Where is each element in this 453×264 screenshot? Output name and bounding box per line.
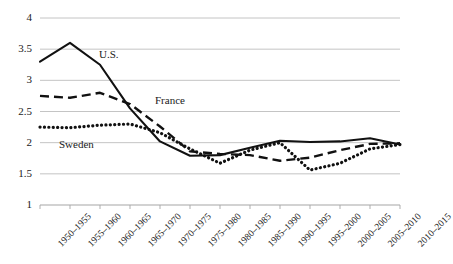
data-series-group: [40, 43, 400, 170]
y-axis-tick-label: 4: [6, 12, 32, 23]
y-axis-tick-label: 2.5: [6, 106, 32, 117]
series-label-sweden: Sweden: [59, 139, 94, 150]
data-series-line-sweden: [40, 124, 400, 170]
series-label-france: France: [155, 95, 185, 106]
series-label-us: U.S.: [99, 49, 119, 60]
y-axis-tick-label: 3: [6, 74, 32, 85]
gridlines: [40, 18, 400, 205]
y-axis-tick-label: 3.5: [6, 43, 32, 54]
data-series-line-us: [40, 43, 400, 156]
x-axis-ticks: [40, 205, 400, 209]
y-axis-tick-label: 1: [6, 199, 32, 210]
y-axis-tick-label: 1.5: [6, 168, 32, 179]
y-axis-tick-label: 2: [6, 137, 32, 148]
